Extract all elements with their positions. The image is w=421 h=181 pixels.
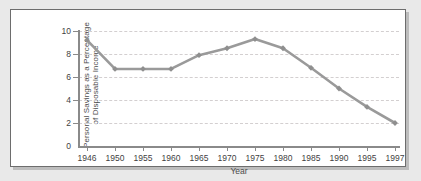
series-line	[87, 39, 395, 123]
chart-panel: Personal Savings as a Percentage of Disp…	[10, 9, 406, 167]
data-series-layer	[11, 10, 421, 181]
data-point-marker	[140, 66, 146, 72]
figure-container: Personal Savings as a Percentage of Disp…	[0, 0, 421, 181]
